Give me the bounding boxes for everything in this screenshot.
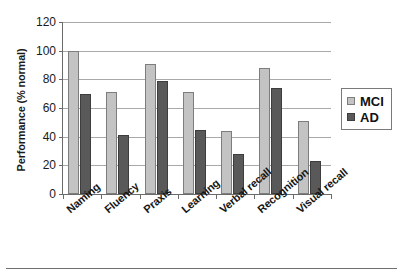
y-tick-label: 120 bbox=[36, 15, 56, 29]
bar-ad bbox=[157, 81, 168, 194]
bar-ad bbox=[271, 88, 282, 194]
y-axis-title: Performance (% normal) bbox=[15, 25, 27, 195]
x-tick-mark bbox=[63, 194, 64, 199]
bar-mci bbox=[106, 92, 117, 194]
y-tick-label: 60 bbox=[43, 101, 56, 115]
y-tick-label: 20 bbox=[43, 158, 56, 172]
bar-groups bbox=[63, 22, 331, 194]
bar-chart: Performance (% normal) 020406080100120 N… bbox=[0, 0, 403, 277]
x-tick-mark bbox=[331, 194, 332, 199]
x-tick-mark bbox=[216, 194, 217, 199]
legend-item-mci: MCI bbox=[347, 93, 384, 109]
bar-mci bbox=[221, 131, 232, 194]
legend-swatch-ad-icon bbox=[347, 113, 355, 121]
bar-group bbox=[101, 22, 139, 194]
legend-swatch-mci-icon bbox=[347, 97, 355, 105]
x-tick-mark bbox=[293, 194, 294, 199]
x-tick-mark bbox=[101, 194, 102, 199]
x-tick-mark bbox=[254, 194, 255, 199]
plot-area: 020406080100120 bbox=[62, 22, 331, 194]
bar-mci bbox=[145, 64, 156, 194]
x-tick-mark bbox=[178, 194, 179, 199]
x-tick-mark bbox=[140, 194, 141, 199]
legend-item-ad: AD bbox=[347, 109, 384, 125]
bar-group bbox=[216, 22, 254, 194]
x-axis-labels: NamingFluencyPraxisLearningVerbal recall… bbox=[62, 200, 352, 270]
bottom-divider bbox=[6, 268, 397, 269]
legend-label-ad: AD bbox=[360, 111, 379, 124]
bar-group bbox=[63, 22, 101, 194]
bar-group bbox=[140, 22, 178, 194]
bar-group bbox=[178, 22, 216, 194]
legend-label-mci: MCI bbox=[360, 95, 384, 108]
y-tick-label: 40 bbox=[43, 130, 56, 144]
bar-ad bbox=[80, 94, 91, 194]
y-tick-label: 80 bbox=[43, 72, 56, 86]
legend: MCI AD bbox=[341, 88, 392, 130]
bar-mci bbox=[68, 51, 79, 194]
y-tick-label: 100 bbox=[36, 44, 56, 58]
bar-mci bbox=[183, 92, 194, 194]
y-tick-label: 0 bbox=[49, 187, 56, 201]
